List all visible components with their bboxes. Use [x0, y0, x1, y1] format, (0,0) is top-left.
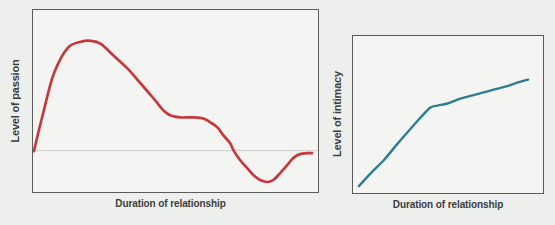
passion-x-axis-label: Duration of relationship [27, 198, 314, 209]
passion-plot-area [32, 9, 319, 193]
passion-curve [34, 41, 312, 182]
intimacy-x-axis-label: Duration of relationship [352, 199, 544, 210]
passion-curve-svg [33, 10, 318, 192]
passion-y-axis-label: Level of passion [8, 10, 22, 192]
intimacy-plot-area [352, 35, 544, 194]
intimacy-curve [359, 80, 528, 187]
intimacy-y-axis-label: Level of intimacy [330, 36, 344, 193]
figure-canvas: Level of passion Duration of relationshi… [0, 0, 555, 225]
intimacy-curve-svg [353, 36, 543, 193]
